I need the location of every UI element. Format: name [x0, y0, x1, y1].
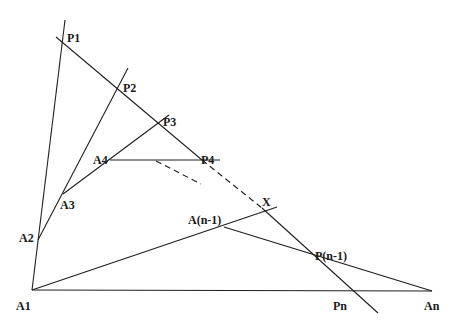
geometry-diagram: P1P2P3A4P4A3XA(n-1)A2P(n-1)A1PnAn: [0, 0, 460, 331]
point-label-pn1: P(n-1): [315, 249, 347, 263]
segments-layer: [32, 20, 432, 313]
line-A2-P2: [38, 68, 128, 240]
point-label-an1: A(n-1): [188, 213, 221, 227]
point-label-an: An: [424, 299, 440, 313]
point-label-a4: A4: [93, 153, 108, 167]
point-label-p3: P3: [163, 115, 176, 129]
dashed-continuation: [156, 161, 201, 184]
line-A3-P3: [63, 115, 169, 194]
labels-layer: P1P2P3A4P4A3XA(n-1)A2P(n-1)A1PnAn: [16, 31, 440, 313]
point-label-p2: P2: [123, 81, 136, 95]
line-A1-P1: [32, 20, 65, 290]
point-label-pn: Pn: [333, 299, 347, 313]
point-label-a3: A3: [60, 198, 75, 212]
line-A1-X: [32, 207, 277, 290]
point-label-a2: A2: [19, 231, 34, 245]
point-label-a1: A1: [16, 299, 31, 313]
transversal-dashed: [202, 160, 262, 208]
diagram-canvas: P1P2P3A4P4A3XA(n-1)A2P(n-1)A1PnAn: [0, 0, 460, 331]
point-label-p1: P1: [67, 31, 80, 45]
line-A1-An: [32, 290, 432, 291]
point-label-x: X: [262, 195, 271, 209]
point-label-p4: P4: [201, 153, 214, 167]
transversal-upper: [56, 37, 202, 160]
